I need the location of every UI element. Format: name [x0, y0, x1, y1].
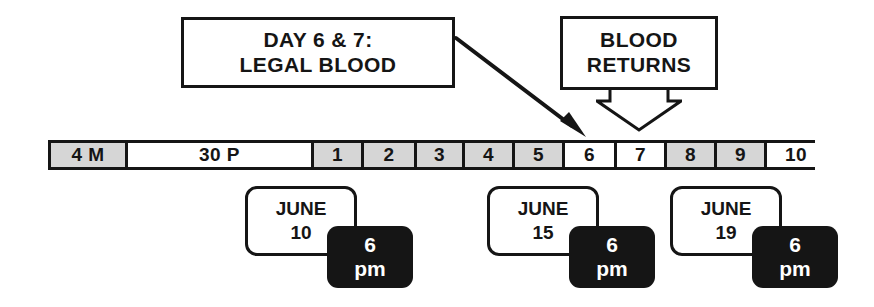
time-badge: 6pm	[752, 226, 838, 288]
timeline-segment: 7	[617, 143, 667, 167]
callout-legal-blood-line2: LEGAL BLOOD	[240, 53, 397, 78]
timeline-segment-label: 5	[533, 144, 544, 166]
date-callout: JUNE156pm	[487, 186, 655, 288]
timeline-segment: 9	[717, 143, 767, 167]
timeline-segment: 10	[767, 143, 825, 167]
timeline-segment-label: 8	[685, 144, 696, 166]
timeline-segment: 30 P	[128, 143, 314, 167]
timeline-segment: 8	[667, 143, 717, 167]
time-badge-hour: 6	[364, 233, 376, 257]
timeline-segment: 3	[417, 143, 465, 167]
timeline-segment: 2	[364, 143, 417, 167]
timeline-segment-label: 9	[735, 144, 746, 166]
timeline-segment: 4 M	[51, 143, 128, 167]
timeline-segment-label: 7	[635, 144, 646, 166]
timeline-segment: 5	[515, 143, 565, 167]
date-month-label: JUNE	[701, 197, 752, 221]
date-day-label: 15	[532, 221, 553, 245]
time-badge: 6pm	[327, 226, 413, 288]
time-badge-meridiem: pm	[779, 257, 811, 281]
callout-legal-blood: DAY 6 & 7: LEGAL BLOOD	[181, 17, 455, 88]
down-arrow-icon	[596, 86, 682, 132]
timeline-bar: 4 M30 P12345678910	[48, 140, 815, 170]
time-badge-meridiem: pm	[354, 257, 386, 281]
time-badge-hour: 6	[789, 233, 801, 257]
date-callout: JUNE106pm	[245, 186, 413, 288]
date-callout: JUNE196pm	[670, 186, 838, 288]
date-month-label: JUNE	[518, 197, 569, 221]
callout-blood-returns-line2: RETURNS	[587, 53, 691, 78]
timeline-segment-label: 3	[434, 144, 445, 166]
time-badge: 6pm	[569, 226, 655, 288]
timeline-segment: 6	[565, 143, 617, 167]
callout-legal-blood-line1: DAY 6 & 7:	[263, 28, 372, 53]
date-day-label: 19	[715, 221, 736, 245]
timeline-segment-label: 10	[785, 144, 807, 166]
timeline-segment-label: 4	[483, 144, 494, 166]
timeline-segment: 1	[314, 143, 364, 167]
callout-blood-returns: BLOOD RETURNS	[560, 16, 718, 90]
time-badge-meridiem: pm	[596, 257, 628, 281]
timeline-segment-label: 6	[584, 144, 595, 166]
date-month-label: JUNE	[276, 197, 327, 221]
time-badge-hour: 6	[606, 233, 618, 257]
callout-blood-returns-line1: BLOOD	[600, 28, 678, 53]
date-day-label: 10	[290, 221, 311, 245]
timeline-segment: 4	[465, 143, 515, 167]
timeline-segment-label: 1	[332, 144, 343, 166]
timeline-segment-label: 30 P	[199, 144, 240, 166]
timeline-diagram: DAY 6 & 7: LEGAL BLOOD BLOOD RETURNS 4 M…	[0, 0, 874, 307]
timeline-segment-label: 2	[383, 144, 394, 166]
timeline-segment-label: 4 M	[71, 144, 104, 166]
